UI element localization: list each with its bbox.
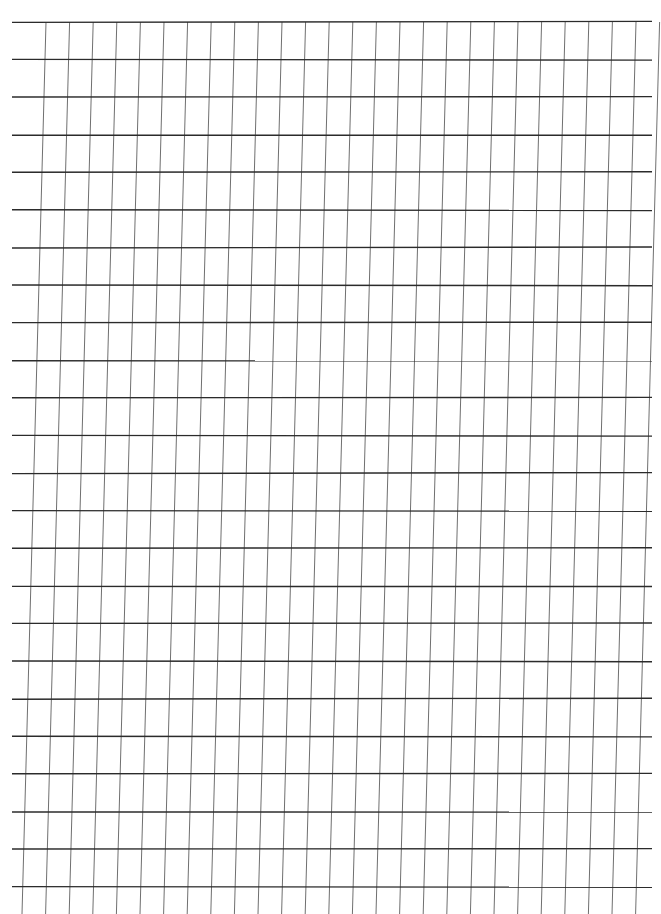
slant-guide bbox=[541, 22, 565, 914]
slant-guide bbox=[447, 22, 471, 914]
slant-guide bbox=[470, 22, 494, 914]
slant-guide bbox=[22, 22, 46, 914]
horizontal-rule bbox=[12, 59, 652, 60]
horizontal-rule bbox=[12, 435, 652, 436]
slant-guide bbox=[588, 22, 612, 914]
slant-guide bbox=[164, 22, 188, 914]
slant-guide bbox=[376, 22, 400, 914]
horizontal-rule bbox=[12, 285, 652, 286]
horizontal-rule bbox=[12, 210, 652, 211]
horizontal-rules bbox=[12, 21, 652, 887]
slant-guide bbox=[211, 22, 235, 914]
slant-guide bbox=[116, 22, 140, 914]
slant-guide bbox=[282, 22, 306, 914]
slant-guide bbox=[329, 22, 353, 914]
slant-guide bbox=[258, 22, 282, 914]
slant-guide bbox=[518, 22, 542, 914]
slant-guide bbox=[494, 22, 518, 914]
ruled-grid bbox=[0, 0, 661, 914]
slant-guide bbox=[612, 22, 636, 914]
horizontal-rule bbox=[12, 473, 652, 474]
slant-guide bbox=[93, 22, 117, 914]
horizontal-rule bbox=[12, 661, 652, 662]
horizontal-rule bbox=[12, 247, 652, 248]
slant-guide bbox=[187, 22, 211, 914]
slant-guide bbox=[305, 22, 329, 914]
horizontal-rule bbox=[12, 698, 652, 699]
horizontal-rule bbox=[12, 511, 652, 512]
slant-guide bbox=[400, 22, 424, 914]
slant-guide bbox=[636, 22, 660, 914]
horizontal-rule bbox=[12, 887, 652, 888]
slant-guide bbox=[565, 22, 589, 914]
slant-guides bbox=[22, 22, 660, 914]
slant-guide bbox=[352, 22, 376, 914]
slant-guide bbox=[140, 22, 164, 914]
horizontal-rule bbox=[12, 736, 652, 737]
horizontal-rule bbox=[12, 21, 652, 22]
slant-guide bbox=[423, 22, 447, 914]
slant-guide bbox=[46, 22, 70, 914]
slant-guide bbox=[69, 22, 93, 914]
slant-guide bbox=[234, 22, 258, 914]
